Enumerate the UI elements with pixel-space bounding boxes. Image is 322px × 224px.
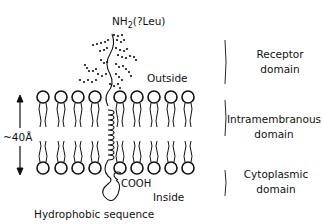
protein-chain — [103, 34, 121, 201]
outer-leaflet-heads — [37, 91, 194, 103]
cooh-label: COOH — [121, 177, 151, 191]
lipid-tails — [39, 103, 192, 162]
caption: Hydrophobic sequence — [34, 207, 154, 221]
intramembranous-domain-label: Intramembranous domain — [226, 112, 322, 142]
outside-label: Outside — [147, 71, 188, 85]
thickness-label: ~40Å — [3, 130, 32, 144]
cytoplasmic-domain-label: Cytoplasmic domain — [236, 167, 316, 197]
n-terminus-label: NH2(?Leu) — [112, 14, 165, 33]
receptor-domain-label: Receptor domain — [240, 47, 320, 77]
inside-label: Inside — [153, 190, 184, 204]
sugar-chains — [79, 34, 137, 89]
